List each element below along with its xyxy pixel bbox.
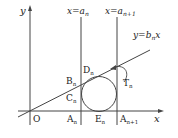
label-point-an1: An+1 [119,114,138,125]
label-line-x-an1: x=an+1 [105,6,136,17]
inscribed-circle [82,77,117,112]
y-axis-arrow-icon [28,5,32,11]
label-point-dn: Dn [83,65,94,76]
label-point-tn: Tn [123,78,133,89]
label-line-y-bnx: y=bnx [132,30,160,41]
x-axis-label: x [154,113,160,124]
y-axis-label: y [19,5,26,16]
label-point-an: An [66,114,78,125]
curved-arrow-head-icon [110,65,116,70]
label-point-bn: Bn [66,76,77,87]
origin-label: O [33,114,40,124]
label-point-en: En [95,114,106,125]
diagram: y x O x=an x=an+1 y=bnx An En An+1 Bn Cn… [0,0,178,138]
label-line-x-an: x=an [67,6,89,17]
label-point-cn: Cn [66,93,77,104]
diagram-canvas: y x O x=an x=an+1 y=bnx An En An+1 Bn Cn… [0,0,178,138]
